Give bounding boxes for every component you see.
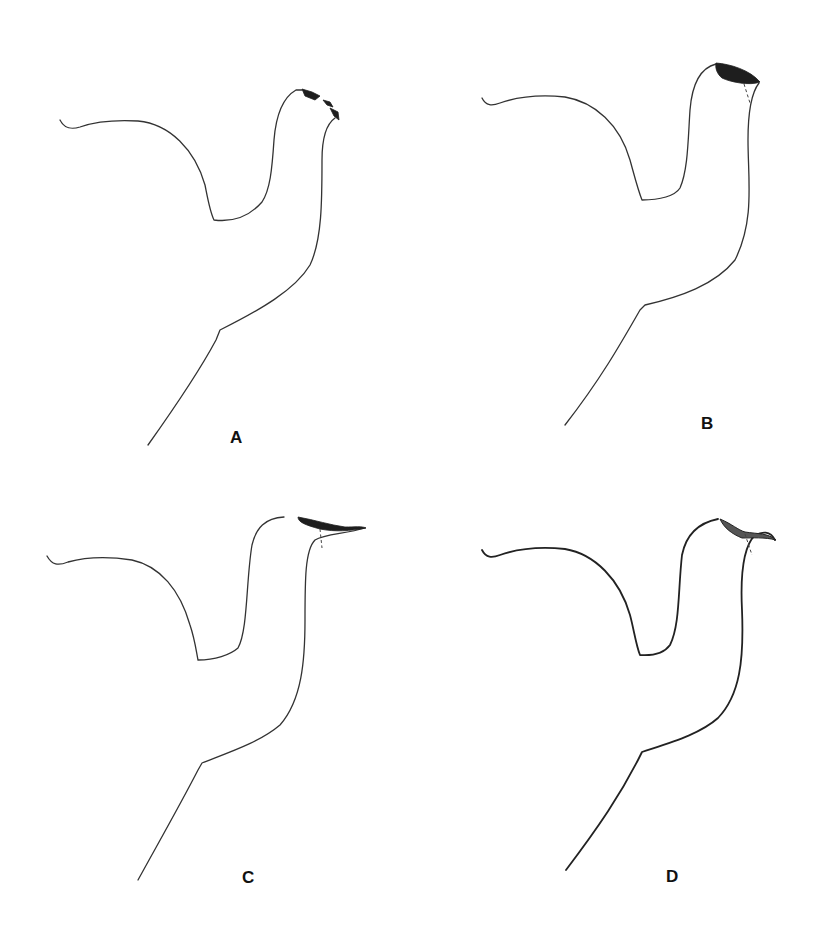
panel-b-tip-cap bbox=[716, 63, 760, 84]
panel-b-label: B bbox=[701, 414, 713, 433]
panel-d-label: D bbox=[666, 867, 678, 886]
panel-a-tip-fragment-2 bbox=[323, 100, 333, 107]
panel-c-tip-band bbox=[298, 517, 366, 531]
panel-c-outline-right bbox=[138, 528, 365, 880]
panel-b-outline-left bbox=[482, 64, 716, 200]
panel-b-tip-dashed-line bbox=[744, 84, 750, 103]
panel-a-tip-fragment-1 bbox=[302, 89, 320, 100]
figure-canvas: A B C D bbox=[0, 0, 821, 951]
panel-c: C bbox=[47, 517, 366, 887]
panel-b: B bbox=[482, 63, 760, 433]
panel-d: D bbox=[482, 519, 776, 886]
panel-a: A bbox=[60, 89, 339, 447]
panel-a-label: A bbox=[230, 428, 242, 447]
panel-d-tip-band bbox=[720, 519, 776, 540]
panel-c-label: C bbox=[242, 868, 254, 887]
panel-d-outline-left bbox=[482, 519, 718, 655]
panel-b-outline-right bbox=[565, 83, 759, 425]
panel-d-outline-right bbox=[566, 533, 775, 870]
panel-a-outline-right bbox=[148, 118, 335, 445]
panel-c-outline-left bbox=[47, 517, 284, 660]
panel-c-tip-dashed-line bbox=[320, 529, 322, 548]
panel-a-outline-left bbox=[60, 90, 302, 220]
